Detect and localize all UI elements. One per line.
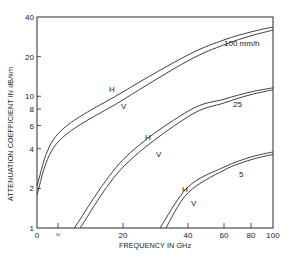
curve-label: 5 — [239, 170, 244, 179]
y-tick-label: 4 — [30, 145, 35, 154]
x-tick-label: 40 — [184, 231, 193, 240]
x-tick-label: 60 — [220, 231, 229, 240]
curve-label: H — [182, 185, 188, 194]
y-tick-label: 6 — [30, 122, 35, 131]
y-tick-label: 2 — [30, 184, 35, 193]
x-tick-label: 10 — [56, 232, 61, 237]
curve-5-mm-h-h — [160, 152, 273, 228]
attenuation-curves — [37, 27, 273, 228]
curve-labels: 100 mm/h255HVHVHV — [109, 39, 260, 208]
curve-label: V — [121, 102, 127, 111]
y-axis-ticks: 12468102040 — [25, 13, 41, 233]
curve-label: H — [109, 85, 115, 94]
curve-label: H — [145, 133, 151, 142]
curve-100-mm-h-v — [37, 30, 273, 194]
x-axis-title: FREQUENCY IN GHz — [119, 241, 191, 250]
x-tick-label: 0 — [35, 231, 40, 240]
curve-label: V — [156, 150, 162, 159]
y-tick-label: 10 — [25, 92, 34, 101]
curve-label: V — [191, 199, 197, 208]
y-tick-label: 8 — [30, 105, 35, 114]
y-tick-label: 40 — [25, 13, 34, 22]
curve-label: 100 mm/h — [224, 39, 260, 48]
x-axis-ticks: 01020406080100 — [35, 223, 280, 240]
y-axis-title: ATTENUATION COEFFICIENT IN dB/km — [6, 67, 15, 201]
x-tick-label: 100 — [266, 231, 280, 240]
x-tick-label: 20 — [119, 231, 128, 240]
y-tick-label: 20 — [25, 53, 34, 62]
rain-attenuation-chart: 12468102040 01020406080100 100 mm/h255HV… — [0, 0, 293, 261]
curve-25-mm-h-h — [74, 88, 273, 228]
plot-frame — [37, 17, 273, 228]
x-tick-label: 80 — [247, 231, 256, 240]
curve-label: 25 — [233, 100, 242, 109]
